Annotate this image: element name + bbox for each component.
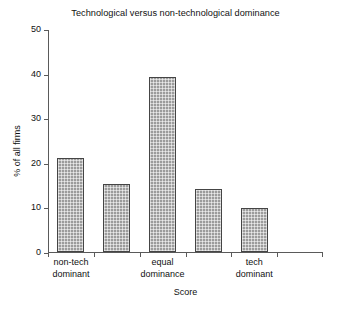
y-tick-mark-10	[44, 208, 48, 209]
bar-chart-figure: Technological versus non-technological d…	[0, 0, 351, 310]
x-tick-label-tech-dominant: tech dominant	[199, 257, 309, 280]
y-tick-mark-40	[44, 75, 48, 76]
y-tick-label-40: 40	[19, 69, 41, 79]
bar-slot-4	[195, 189, 222, 252]
bar-equal-dominance	[149, 77, 176, 252]
y-tick-label-30: 30	[19, 113, 41, 123]
x-axis-title: Score	[48, 287, 323, 297]
bar-slot-2	[103, 184, 130, 252]
y-tick-label-50: 50	[19, 24, 41, 34]
y-tick-mark-20	[44, 164, 48, 165]
y-tick-label-0: 0	[19, 247, 41, 257]
y-tick-mark-50	[44, 30, 48, 31]
plot-area: 0 10 20 30 40 50	[48, 30, 323, 253]
bar-non-tech-dominant	[57, 158, 84, 252]
y-tick-label-20: 20	[19, 158, 41, 168]
y-tick-mark-30	[44, 119, 48, 120]
chart-title: Technological versus non-technological d…	[0, 8, 351, 18]
x-tick-label-5-line2: dominant	[199, 269, 309, 281]
y-axis-line	[48, 30, 49, 253]
x-tick-label-5-line1: tech	[199, 257, 309, 269]
x-tick-mark-6	[322, 253, 323, 257]
bar-tech-dominant	[241, 208, 268, 252]
y-tick-label-10: 10	[19, 202, 41, 212]
